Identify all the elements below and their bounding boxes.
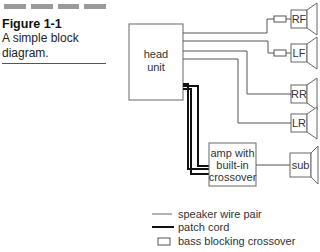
legend-label-crossover: bass blocking crossover xyxy=(178,235,296,247)
speaker-lr-icon: LR xyxy=(291,107,317,139)
speaker-rf-label: RF xyxy=(292,13,307,25)
head-unit-label-1: head xyxy=(144,48,168,60)
legend-box-icon xyxy=(158,238,170,245)
rf-wire xyxy=(183,16,291,33)
head-unit-label-2: unit xyxy=(147,61,165,73)
speaker-lf-icon: LF xyxy=(291,37,317,69)
legend-label-patch-cord: patch cord xyxy=(178,221,229,233)
amp-label-1: amp with xyxy=(210,147,254,159)
block-diagram: head unit amp with built-in crossover RF xyxy=(0,0,320,252)
speaker-sub-label: sub xyxy=(292,159,310,171)
lr-wire xyxy=(183,59,291,123)
speaker-lf-label: LF xyxy=(293,47,306,59)
speaker-sub-icon: sub xyxy=(290,146,318,184)
legend: speaker wire pair patch cord bass blocki… xyxy=(152,208,296,247)
speaker-lr-label: LR xyxy=(292,117,306,129)
rr-wire xyxy=(183,51,291,94)
speaker-rr-icon: RR xyxy=(291,78,317,110)
lf-wire xyxy=(183,41,291,56)
amp-label-2: built-in xyxy=(216,159,248,171)
head-unit-block: head unit xyxy=(129,24,183,100)
legend-label-speaker-wire: speaker wire pair xyxy=(178,208,262,220)
amp-label-3: crossover xyxy=(209,171,257,183)
amp-block: amp with built-in crossover xyxy=(209,143,257,186)
patch-cord xyxy=(183,84,209,174)
speaker-rf-icon: RF xyxy=(291,3,317,35)
speaker-rr-label: RR xyxy=(291,88,307,100)
